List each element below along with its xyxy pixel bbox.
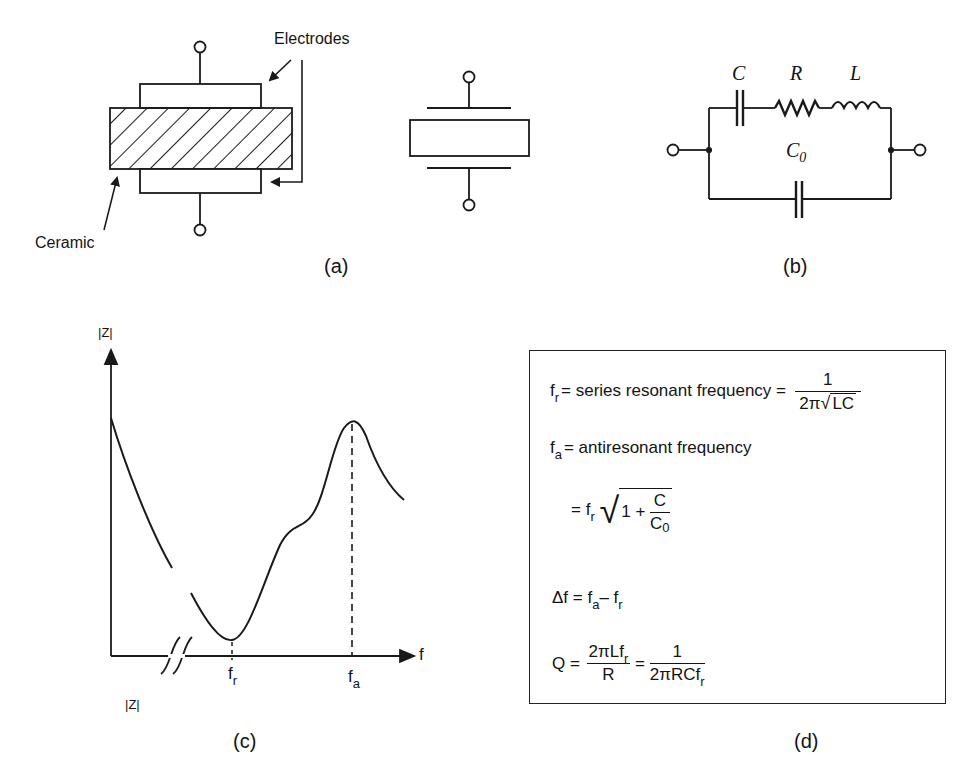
electrodes-label: Electrodes bbox=[274, 30, 350, 48]
label-c0-sub: 0 bbox=[799, 150, 806, 165]
resonator-symbol-icon bbox=[410, 72, 529, 211]
formula-fa: fa= antiresonant frequency bbox=[550, 438, 752, 458]
sqrt-icon: √ 1 + CC0 bbox=[599, 488, 671, 534]
impedance-curve-low bbox=[111, 418, 172, 568]
inductor-l-icon bbox=[832, 102, 880, 108]
label-c: C bbox=[732, 62, 745, 85]
formula-fa-expression: = fr √ 1 + CC0 bbox=[571, 488, 672, 534]
tick-fa-sub: a bbox=[353, 676, 360, 691]
capacitor-c-icon bbox=[737, 90, 743, 126]
caption-b: (b) bbox=[783, 255, 807, 278]
ceramic-label: Ceramic bbox=[35, 234, 95, 252]
left-terminal-icon bbox=[668, 145, 679, 156]
resistor-r-icon bbox=[775, 101, 819, 115]
label-c0: C0 bbox=[786, 139, 806, 162]
caption-c: (c) bbox=[233, 730, 256, 753]
y-axis-label: |Z| bbox=[98, 325, 113, 340]
x-axis-label: f bbox=[419, 645, 424, 665]
y-axis-arrow-icon bbox=[105, 350, 117, 364]
capacitor-c0-icon bbox=[796, 181, 802, 218]
impedance-chart bbox=[105, 350, 414, 674]
top-terminal-icon bbox=[195, 42, 206, 53]
caption-a: (a) bbox=[324, 255, 348, 278]
formula-q: Q = 2πLfrR = 12πRCfr bbox=[552, 642, 705, 685]
resonator-structure bbox=[110, 42, 292, 236]
fr-fraction: 1 2π√LC bbox=[795, 370, 861, 414]
impedance-curve-main bbox=[191, 421, 404, 640]
tick-fr: fr bbox=[228, 664, 237, 684]
formula-fr: fr= series resonant frequency = 1 2π√LC bbox=[550, 370, 861, 414]
top-electrode bbox=[140, 84, 261, 108]
x-axis-arrow-icon bbox=[400, 650, 414, 662]
tick-fa: fa bbox=[348, 667, 360, 687]
bottom-z-label: |Z| bbox=[125, 697, 140, 712]
label-r: R bbox=[790, 62, 802, 85]
ceramic-pointer-arrow bbox=[104, 178, 117, 230]
ceramic-body bbox=[110, 108, 292, 169]
right-terminal-icon bbox=[915, 145, 926, 156]
bottom-electrode bbox=[140, 169, 261, 193]
caption-d: (d) bbox=[794, 730, 818, 753]
tick-fr-sub: r bbox=[233, 673, 237, 688]
label-c0-main: C bbox=[786, 139, 799, 161]
bottom-terminal-icon bbox=[195, 225, 206, 236]
formula-delta-f: Δf = fa– fr bbox=[552, 588, 623, 608]
label-l: L bbox=[850, 62, 861, 85]
